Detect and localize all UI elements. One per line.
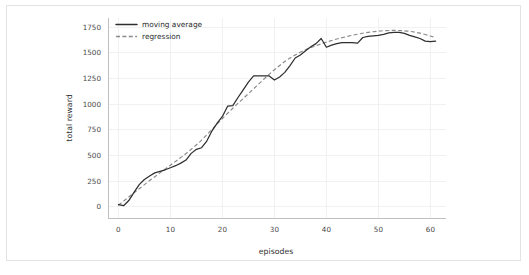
x-tick-label-6: 60: [426, 225, 436, 234]
y-tick-label-4: 1000: [83, 100, 102, 109]
x-tick-label-3: 30: [270, 225, 280, 234]
y-axis-title: total reward: [65, 94, 74, 141]
series-line-regression: [118, 30, 435, 205]
legend-label-moving-average: moving average: [142, 20, 203, 29]
x-axis-title: episodes: [259, 247, 294, 256]
x-tick-labels: 0102030405060: [116, 225, 435, 234]
y-tick-label-0: 0: [96, 202, 101, 211]
y-tick-labels: 02505007501000125015001750: [83, 23, 102, 211]
y-tick-label-5: 1250: [83, 74, 102, 83]
chart-legend[interactable]: moving average regression: [116, 20, 203, 41]
grid-vertical: [118, 18, 430, 218]
legend-label-regression: regression: [142, 32, 181, 41]
figure-canvas: 02505007501000125015001750 0102030405060…: [0, 0, 529, 275]
x-tick-label-1: 10: [166, 225, 176, 234]
x-tick-label-2: 20: [218, 225, 228, 234]
x-tick-label-0: 0: [116, 225, 121, 234]
plot-area: 02505007501000125015001750 0102030405060…: [0, 0, 529, 275]
y-tick-label-2: 500: [87, 151, 101, 160]
y-tick-label-6: 1500: [83, 48, 102, 57]
grid-horizontal: [108, 27, 446, 206]
chart-svg: 02505007501000125015001750 0102030405060…: [0, 0, 529, 275]
y-tick-label-1: 250: [87, 177, 101, 186]
y-tick-label-3: 750: [87, 125, 101, 134]
x-tick-label-4: 40: [322, 225, 332, 234]
y-tick-label-7: 1750: [83, 23, 102, 32]
x-tick-label-5: 50: [374, 225, 384, 234]
series-line-moving-average: [118, 32, 435, 205]
axis-spines: [108, 18, 446, 218]
